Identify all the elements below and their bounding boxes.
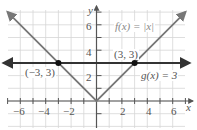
- y-tick-2: 2: [86, 72, 92, 83]
- x-tick-m2: −2: [63, 106, 75, 117]
- intersection-point: [132, 60, 138, 66]
- intersection-point: [55, 60, 61, 66]
- f-label: f(x) = |x|: [114, 21, 155, 32]
- point-label-pos: (3, 3): [113, 49, 139, 60]
- x-tick-6: 6: [171, 106, 177, 117]
- x-axis-label: x: [186, 102, 191, 113]
- point-label-neg: (−3, 3): [24, 67, 56, 78]
- x-tick-4: 4: [146, 106, 152, 117]
- x-tick-2: 2: [120, 106, 126, 117]
- y-axis-label: y: [88, 5, 93, 16]
- x-tick-m6: −6: [13, 106, 25, 117]
- g-label: g(x) = 3: [140, 70, 178, 81]
- chart-canvas: [0, 0, 197, 130]
- y-tick-4: 4: [86, 47, 92, 58]
- x-tick-m4: −4: [38, 106, 50, 117]
- y-tick-6: 6: [86, 21, 92, 32]
